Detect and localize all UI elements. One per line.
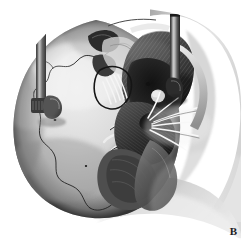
anatomical-illustration [0, 0, 247, 249]
retractor-right-shaft-highlight [173, 15, 175, 83]
retractor-right-cast-shadow [165, 96, 187, 105]
emissary-foramen [85, 165, 87, 167]
retractor-right-shaft[interactable] [170, 14, 180, 84]
figure-panel: B [0, 0, 247, 249]
panel-label: B [230, 226, 237, 237]
condyle-foramen [146, 82, 150, 86]
